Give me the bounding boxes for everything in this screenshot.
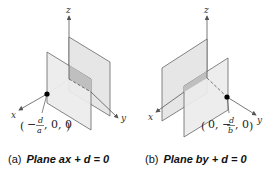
caption-a: (a)Plane ax + d = 0 <box>8 153 109 165</box>
caption-a-label: (a) <box>8 153 21 165</box>
intercept-point <box>224 94 229 99</box>
frac-den: a <box>37 126 42 135</box>
paren-open: ( <box>20 120 24 133</box>
minus-sign: − <box>27 118 36 131</box>
caption-b-equation: Plane by + d = 0 <box>163 153 246 165</box>
z-axis-label: z <box>203 5 209 15</box>
paren-close: ) <box>249 120 253 133</box>
caption-a-equation: Plane ax + d = 0 <box>26 153 109 165</box>
caption-b-label: (b) <box>145 153 158 165</box>
x-axis-label: x <box>11 110 16 120</box>
x-axis <box>19 94 47 110</box>
diagram-canvas: z y x ( − d a , 0, 0 ) z <box>0 0 263 176</box>
figure-a: z y x ( − d a , 0, 0 ) <box>11 5 127 135</box>
paren-open: ( <box>201 120 205 133</box>
intercept-point <box>44 91 49 96</box>
coord-rest: , 0 <box>235 118 249 131</box>
y-axis-label: y <box>120 113 127 123</box>
caption-b: (b)Plane by + d = 0 <box>145 153 247 165</box>
y-axis-label: y <box>256 115 263 125</box>
frac-num: d <box>229 116 234 125</box>
y-axis <box>227 97 256 115</box>
x-axis-label: x <box>148 112 153 122</box>
z-axis-label: z <box>65 5 71 15</box>
frac-num: d <box>38 116 43 125</box>
paren-close: ) <box>66 120 70 133</box>
frac-den: b <box>228 126 233 135</box>
figure-b: z x y ( 0, − d b , 0 ) <box>148 5 263 137</box>
